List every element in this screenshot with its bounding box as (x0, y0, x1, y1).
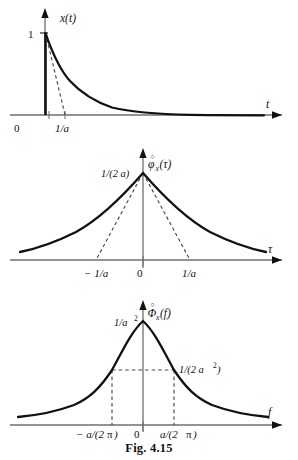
y-tick-label-one: 1 (28, 28, 34, 40)
x-axis-label-tau: τ (268, 243, 273, 255)
y-axis-arrowhead (139, 148, 146, 158)
x-axis-arrowhead (272, 421, 282, 429)
peak-value-label: 1/(2 a) (101, 168, 130, 180)
half-max-base: 1/(2 a (179, 364, 204, 376)
initial-slope-tangent-dashed (46, 33, 66, 115)
x-axis-label-signal: t (266, 98, 270, 110)
figure-caption: Fig. 4.15 (125, 441, 172, 456)
signal-curve (46, 33, 265, 115)
x-tick-label-zero: 0 (137, 267, 143, 279)
half-max-tail: ) (216, 364, 221, 376)
capital-phi-argument: (f) (160, 307, 171, 320)
autocorrelation-plot: ○ φ x (τ) τ 1/(2 a) − 1/a 0 1/a (0, 140, 298, 290)
y-axis-arrowhead (139, 300, 146, 310)
chart-panel-power-spectral-density: ○ Φ x (f) f 1/a 2 1/(2 a 2 ) − a/(2 π ) (0, 290, 298, 440)
peak-value-exponent: 2 (134, 314, 138, 323)
y-axis-label-autocorrelation: ○ φ x (τ) (148, 153, 171, 173)
peak-value-base: 1/a (114, 317, 127, 328)
y-axis-arrowhead (41, 8, 48, 18)
y-axis-label-psd: ○ Φ x (f) (148, 301, 172, 322)
figure-caption-bar: Fig. 4.15 (0, 436, 298, 460)
x-tick-label-neg-inv-a: − 1/a (84, 267, 109, 279)
phi-argument: (τ) (160, 158, 172, 171)
x-tick-label-inv-a: 1/a (182, 267, 197, 279)
x-tick-label-inv-a: 1/a (55, 122, 70, 134)
x-axis-arrowhead (272, 256, 282, 264)
x-axis-arrowhead (272, 111, 282, 119)
chart-panel-signal: x(t) t 1 0 1/a (0, 0, 298, 140)
figure-4-15: x(t) t 1 0 1/a ○ φ x (0, 0, 298, 460)
y-axis-label-signal: x(t) (59, 12, 76, 25)
chart-panel-autocorrelation: ○ φ x (τ) τ 1/(2 a) − 1/a 0 1/a (0, 140, 298, 290)
signal-plot: x(t) t 1 0 1/a (0, 0, 298, 140)
phi-symbol: φ (148, 158, 155, 171)
x-tick-label-zero: 0 (14, 122, 20, 134)
x-axis-label-f: f (268, 406, 273, 419)
left-slope-tangent-dashed (96, 173, 143, 260)
peak-value-label-psd: 1/a 2 (114, 314, 138, 328)
right-slope-tangent-dashed (143, 173, 190, 260)
psd-plot: ○ Φ x (f) f 1/a 2 1/(2 a 2 ) − a/(2 π ) (0, 290, 298, 440)
half-max-value-label: 1/(2 a 2 ) (179, 361, 221, 376)
